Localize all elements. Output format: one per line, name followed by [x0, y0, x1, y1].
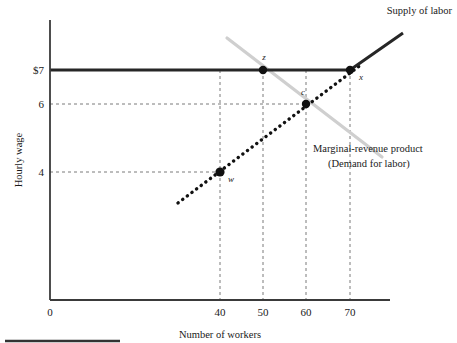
y-axis-title: Hourly wage	[13, 132, 24, 187]
y-tick-label-7: $7	[33, 64, 45, 76]
y-tick-label-4: 4	[39, 166, 45, 178]
x-tick-label-70: 70	[345, 306, 357, 318]
point-label-z: z	[261, 52, 266, 62]
mrp-label-line-1: Marginal-revenue product	[313, 143, 423, 154]
x-axis-title: Number of workers	[179, 329, 261, 340]
data-point-c[interactable]	[302, 100, 310, 108]
x-tick-label-50: 50	[258, 306, 270, 318]
data-point-z[interactable]	[259, 66, 267, 74]
x-tick-label-0: 0	[47, 306, 53, 318]
point-label-x: x	[358, 72, 363, 82]
x-tick-label-60: 60	[301, 306, 313, 318]
x-tick-label-40: 40	[215, 306, 227, 318]
y-tick-label-6: 6	[39, 98, 45, 110]
data-point-w[interactable]	[215, 167, 224, 176]
wage-labor-chart: z c x w $7 6 4 0 40 50 60 70 Hourly wage…	[0, 0, 457, 343]
point-label-w: w	[228, 174, 234, 184]
mrp-label-line-2: (Demand for labor)	[328, 158, 410, 170]
data-point-x[interactable]	[346, 66, 354, 74]
supply-of-labor-label: Supply of labor	[387, 5, 453, 16]
point-label-c: c	[301, 87, 305, 97]
